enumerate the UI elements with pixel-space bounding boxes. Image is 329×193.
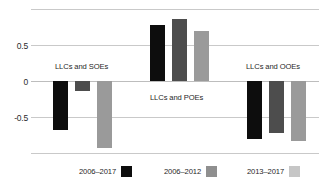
- bar-oOEs-2013-2017: [291, 81, 306, 141]
- plot-area: [31, 9, 319, 153]
- bar-pOEs-2006-2012: [172, 19, 187, 81]
- group-label-ooes: LLCs and OOEs: [246, 62, 300, 71]
- legend-swatch-2013-2017: [289, 166, 300, 177]
- legend-item-2013-2017[interactable]: 2013–2017: [247, 166, 300, 177]
- bar-pOEs-2006-2017: [150, 25, 165, 81]
- legend-swatch-2006-2012: [206, 166, 217, 177]
- gridline-neg1: [31, 153, 319, 154]
- bar-pOEs-2013-2017: [194, 31, 209, 81]
- bar-oOEs-2006-2017: [247, 81, 262, 139]
- bar-sOEs-2006-2017: [53, 81, 68, 130]
- bar-sOEs-2013-2017: [97, 81, 112, 148]
- y-tick-neg0_5: -0.5: [0, 113, 28, 123]
- bar-sOEs-2006-2012: [75, 81, 90, 91]
- legend-item-2006-2017[interactable]: 2006–2017: [79, 166, 132, 177]
- legend-item-2006-2012[interactable]: 2006–2012: [164, 166, 217, 177]
- legend-swatch-2006-2017: [121, 166, 132, 177]
- group-label-soes: LLCs and SOEs: [55, 62, 108, 71]
- legend-label-2013-2017: 2013–2017: [247, 167, 284, 176]
- bar-oOEs-2006-2012: [269, 81, 284, 133]
- group-label-poes: LLCs and POEs: [150, 93, 203, 102]
- legend-label-2006-2017: 2006–2017: [79, 167, 116, 176]
- gridline-1: [31, 9, 319, 10]
- chart-legend: 2006–2017 2006–2012 2013–2017: [0, 162, 329, 184]
- y-tick-0: 0: [4, 77, 28, 87]
- y-tick-0_5: 0.5: [4, 41, 28, 51]
- bar-chart: 0.5 0 -0.5 LLCs and SOEs LLCs and POEs L…: [0, 0, 329, 193]
- legend-label-2006-2012: 2006–2012: [164, 167, 201, 176]
